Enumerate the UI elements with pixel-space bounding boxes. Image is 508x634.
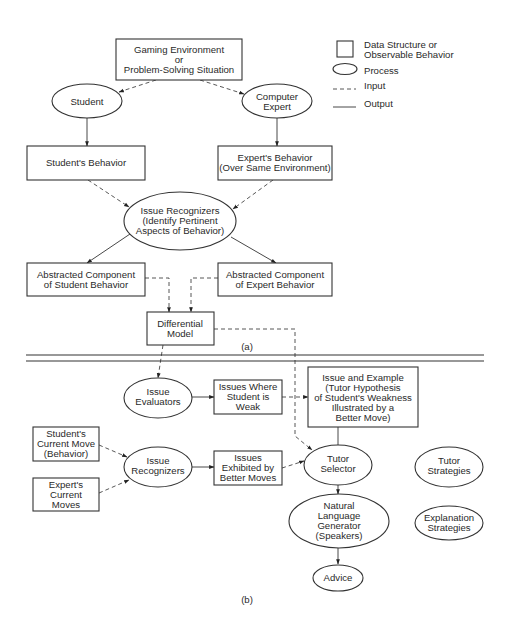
svg-text:Advice: Advice [324,572,353,583]
svg-text:Moves: Moves [52,499,80,510]
section-divider [26,355,484,361]
svg-text:Strategies: Strategies [427,465,470,476]
tutor-selector-process: Tutor Selector [304,445,372,485]
legend-process-label: Process [364,65,399,76]
advice-process: Advice [313,565,363,591]
svg-text:(Over Same Environment): (Over Same Environment) [219,162,330,173]
abstracted-expert-box: Abstracted Component of Expert Behavior [218,263,332,296]
svg-text:Weak: Weak [236,401,261,412]
issue-recognizers-a-process: Issue Recognizers (Identify Pertinent As… [124,192,236,250]
student-process: Student [52,84,122,118]
svg-text:Strategies: Strategies [427,522,470,533]
abstracted-student-box: Abstracted Component of Student Behavior [27,263,145,296]
issues-exhibited-box: Issues Exhibited by Better Moves [214,451,282,485]
computer-expert-process: Computer Expert [242,84,312,118]
svg-text:Better Moves: Better Moves [220,472,277,483]
svg-text:Recognizers: Recognizers [131,465,185,476]
svg-text:of Expert Behavior: of Expert Behavior [236,279,316,290]
issue-and-example-box: Issue and Example (Tutor Hypothesis of S… [308,367,418,427]
svg-text:(Speakers): (Speakers) [316,530,363,541]
legend-input-label: Input [364,80,386,91]
svg-text:(Behavior): (Behavior) [44,448,88,459]
explanation-strategies-process: Explanation Strategies [415,506,483,540]
issue-evaluators-process: Issue Evaluators [124,378,192,418]
experts-behavior-box: Expert's Behavior (Over Same Environment… [218,146,332,180]
svg-text:Student: Student [70,96,103,107]
gaming-environment-box: Gaming Environment or Problem-Solving Si… [116,39,242,80]
legend-box-icon [337,41,353,57]
students-current-move-box: Student's Current Move (Behavior) [33,427,99,461]
experts-current-moves-box: Expert's Current Moves [33,478,99,511]
issues-where-student-weak-box: Issues Where Student is Weak [214,380,282,414]
svg-text:Better Move): Better Move) [336,412,391,423]
legend-data-structure-label-2: Observable Behavior [364,49,454,60]
tutoring-system-diagram: Data Structure or Observable Behavior Pr… [0,0,508,634]
svg-text:Evaluators: Evaluators [135,396,181,407]
students-behavior-box: Student's Behavior [27,146,145,180]
svg-text:Model: Model [167,328,193,339]
svg-text:Aspects of Behavior): Aspects of Behavior) [136,225,225,236]
svg-text:of Student Behavior: of Student Behavior [44,279,129,290]
legend-ellipse-icon [333,64,357,75]
differential-model-box: Differential Model [147,312,214,345]
legend-output-label: Output [364,98,393,109]
svg-text:Problem-Solving Situation: Problem-Solving Situation [124,64,234,75]
natural-language-generator-process: Natural Language Generator (Speakers) [289,494,389,548]
part-b-label: (b) [241,594,253,605]
legend: Data Structure or Observable Behavior Pr… [333,39,454,109]
part-a-label: (a) [241,341,253,352]
tutor-strategies-process: Tutor Strategies [415,447,483,487]
svg-text:Expert: Expert [263,101,291,112]
svg-text:Student's Behavior: Student's Behavior [46,157,127,168]
svg-text:Selector: Selector [320,463,356,474]
issue-recognizers-b-process: Issue Recognizers [124,447,192,487]
